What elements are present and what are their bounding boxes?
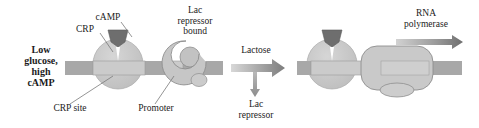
released-lac-repressor-label: Lac repressor: [226, 99, 286, 120]
camp-label: cAMP: [86, 12, 130, 23]
lac-repressor-lobe: [191, 74, 207, 87]
rna-polymerase-shape: [361, 46, 433, 97]
repressor-release-arrow-down: [250, 72, 260, 97]
dna-in-polymerase: [381, 61, 429, 75]
lac-repressor-shape: [162, 41, 207, 87]
promoter-label: Promoter: [128, 103, 184, 114]
crp-site-label: CRP site: [41, 103, 99, 114]
leader-line-crp-site: [70, 76, 113, 104]
reaction-arrow-right: [231, 59, 285, 77]
rna-polymerase-label: RNA polymerase: [390, 8, 462, 29]
leader-line-promoter: [155, 76, 174, 104]
lac-repressor-bound-label: Lac repressor bound: [166, 5, 224, 37]
condition-label: Low glucose, high cAMP: [10, 44, 72, 88]
crp-site-segment-right: [311, 61, 363, 75]
lactose-label: Lactose: [228, 45, 284, 56]
crp-site-segment: [93, 61, 145, 75]
rna-polymerase-foot: [380, 83, 414, 97]
crp-label: CRP: [66, 24, 104, 35]
lac-operon-diagram: Low glucose, high cAMP cAMP CRP Lac repr…: [0, 0, 479, 128]
